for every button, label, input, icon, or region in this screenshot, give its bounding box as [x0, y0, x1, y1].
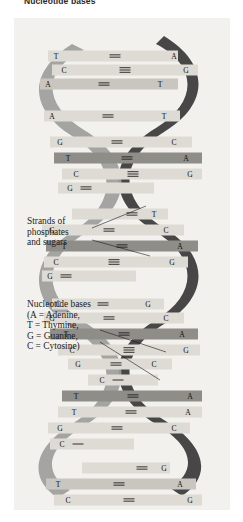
base-pair-rung: TA	[46, 241, 198, 252]
base-pair-rung: AT	[40, 79, 178, 90]
base-letter-right: C	[151, 360, 156, 369]
figure-caption: Nucleotide bases	[24, 0, 96, 6]
base-letter-right: A	[171, 52, 177, 61]
base-pair-rung: TA	[54, 153, 202, 164]
rung-bar	[48, 51, 178, 62]
base-letter-left: C	[61, 66, 66, 75]
base-letter-left: G	[47, 272, 53, 281]
base-pair-rung: GC	[50, 137, 192, 148]
rung-bar	[48, 423, 190, 434]
base-pair-rung: TA	[62, 391, 202, 402]
base-letter-right: A	[185, 408, 191, 417]
rung-bar	[54, 495, 202, 506]
base-pair-rung: GC	[68, 359, 172, 370]
base-pair-rung: TA	[46, 479, 196, 490]
rung-bar	[46, 479, 196, 490]
rung-bar	[42, 271, 136, 282]
rung-bar	[62, 391, 202, 402]
rung-bar	[46, 241, 198, 252]
base-letter-right: T	[158, 80, 163, 89]
base-pair-rung: CG	[44, 257, 188, 268]
base-pair-rung: C	[88, 375, 158, 386]
base-letter-left: G	[67, 184, 73, 193]
base-letter-right: A	[177, 242, 183, 251]
base-letter-left: C	[59, 440, 64, 449]
base-letter-left: G	[57, 424, 63, 433]
base-letter-left: T	[74, 392, 79, 401]
annotation-nucleotide-bases: Nucleotide bases (A = Adenine, T = Thymi…	[27, 299, 91, 352]
dna-figure-panel: TACGATATGCTACGGTGCTACGGCGGCTACGGCCTATAGC…	[14, 18, 230, 510]
rung-bar	[44, 111, 180, 122]
base-letter-right: A	[177, 480, 183, 489]
figure-caption-strip: Nucleotide bases	[0, 0, 243, 9]
base-letter-right: G	[161, 464, 167, 473]
base-letter-left: G	[75, 360, 81, 369]
base-letter-right: C	[171, 424, 176, 433]
rung-bar	[82, 463, 170, 474]
dna-double-helix-illustration: TACGATATGCTACGGTGCTACGGCGGCTACGGCCTATAGC…	[14, 18, 230, 510]
base-pair-rung: CG	[62, 169, 202, 180]
base-pair-rung: G	[42, 271, 136, 282]
base-letter-left: T	[66, 154, 71, 163]
base-letter-right: G	[183, 346, 189, 355]
base-pair-rung: CG	[54, 495, 202, 506]
base-letter-right: C	[171, 138, 176, 147]
base-letter-right: C	[163, 226, 168, 235]
base-letter-left: C	[99, 376, 104, 385]
base-letter-right: T	[152, 210, 157, 219]
base-pair-rung: C	[50, 439, 134, 450]
base-letter-right: A	[179, 330, 185, 339]
base-pair-rung: G	[58, 183, 154, 194]
base-letter-left: C	[73, 170, 78, 179]
base-letter-right: A	[187, 392, 193, 401]
base-letter-left: A	[45, 80, 51, 89]
base-letter-right: G	[183, 66, 189, 75]
base-letter-right: C	[163, 314, 168, 323]
base-letter-left: T	[72, 408, 77, 417]
base-letter-left: C	[65, 496, 70, 505]
base-pair-rung: TA	[58, 407, 202, 418]
base-letter-left: T	[54, 52, 59, 61]
base-pair-rung: AT	[44, 111, 180, 122]
rung-bar	[58, 407, 202, 418]
base-letter-left: A	[49, 112, 55, 121]
base-pair-rung: TA	[48, 51, 178, 62]
base-letter-right: G	[145, 300, 151, 309]
base-letter-right: G	[187, 170, 193, 179]
base-letter-right: A	[183, 154, 189, 163]
base-pair-rung: G	[82, 463, 170, 474]
base-pair-rung: CG	[52, 65, 198, 76]
base-letter-right: T	[162, 112, 167, 121]
rung-bar	[54, 153, 202, 164]
base-letter-right: G	[187, 496, 193, 505]
base-letter-left: G	[57, 138, 63, 147]
annotation-strands-of-phosphates-and-sugars: Strands of phosphates and sugars	[27, 216, 69, 248]
base-pair-rung: T	[72, 209, 168, 220]
base-letter-left: T	[56, 480, 61, 489]
base-letter-right: G	[169, 258, 175, 267]
base-pair-rung: GC	[48, 423, 190, 434]
base-letter-left: C	[53, 258, 58, 267]
